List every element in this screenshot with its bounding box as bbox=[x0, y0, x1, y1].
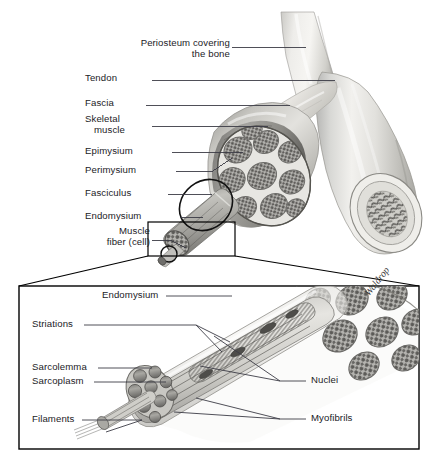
muscle-structure-figure: Periosteum covering the bone Tendon Fasc… bbox=[0, 0, 444, 474]
label-tendon: Tendon bbox=[85, 72, 117, 83]
label-endomysium-lower: Endomysium bbox=[102, 289, 158, 300]
label-periosteum-line2: the bone bbox=[192, 48, 230, 59]
label-nuclei: Nuclei bbox=[311, 374, 338, 385]
label-epimysium: Epimysium bbox=[85, 145, 133, 156]
label-perimysium: Perimysium bbox=[85, 164, 136, 175]
label-skeletal-muscle: Skeletal muscle bbox=[85, 113, 125, 135]
label-striations: Striations bbox=[32, 318, 73, 329]
label-fascia: Fascia bbox=[85, 97, 114, 108]
label-muscle-fiber: Muscle fiber (cell) bbox=[58, 225, 150, 247]
label-periosteum-line1: Periosteum covering bbox=[141, 37, 230, 48]
label-sarcolemma: Sarcolemma bbox=[32, 361, 87, 372]
label-filaments: Filaments bbox=[32, 413, 74, 424]
label-endomysium: Endomysium bbox=[85, 210, 141, 221]
label-muscle-fiber-line1: Muscle bbox=[119, 225, 150, 236]
label-myofibrils: Myofibrils bbox=[311, 412, 353, 423]
label-muscle-fiber-line2: fiber (cell) bbox=[107, 236, 150, 247]
label-skeletal-muscle-line2: muscle bbox=[85, 124, 125, 135]
label-periosteum: Periosteum covering the bone bbox=[84, 37, 230, 59]
label-fasciculus: Fasciculus bbox=[85, 187, 131, 198]
label-sarcoplasm: Sarcoplasm bbox=[32, 375, 84, 386]
label-skeletal-muscle-line1: Skeletal bbox=[85, 113, 120, 124]
